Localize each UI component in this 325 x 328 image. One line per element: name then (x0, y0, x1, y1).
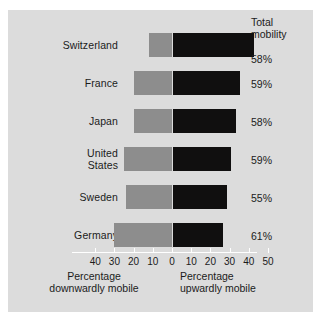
bar-row: Switzerland58% (8, 28, 313, 66)
bar-upwardly-mobile (173, 185, 227, 209)
axis-tick (268, 248, 269, 253)
axis-tick-label: 30 (220, 256, 240, 267)
bar-downwardly-mobile (134, 109, 172, 133)
axis-caption-right-line1: Percentage (180, 270, 305, 282)
axis-tick (230, 248, 231, 253)
total-mobility-value: 61% (251, 230, 272, 242)
axis-tick (191, 248, 192, 253)
bar-row: UnitedStates59% (8, 142, 313, 180)
total-mobility-value: 58% (251, 116, 272, 128)
total-mobility-header-line1: Total (251, 16, 287, 28)
total-mobility-value: 59% (251, 78, 272, 90)
bar-row: Sweden55% (8, 180, 313, 218)
total-mobility-value: 55% (251, 192, 272, 204)
axis-tick (210, 248, 211, 253)
bar-downwardly-mobile (124, 147, 172, 171)
axis-tick-label: 20 (200, 256, 220, 267)
bar-upwardly-mobile (173, 71, 240, 95)
bar-downwardly-mobile (126, 185, 172, 209)
axis-tick-label: 10 (181, 256, 201, 267)
axis-caption-right-line2: upwardly mobile (180, 282, 305, 294)
total-mobility-value: 59% (251, 154, 272, 166)
axis-caption-left-line1: Percentage (14, 270, 174, 282)
axis-tick (134, 248, 135, 253)
bar-upwardly-mobile (173, 223, 223, 247)
x-axis: 4030201001020304050 Percentage downwardl… (8, 252, 313, 312)
axis-tick-label: 40 (85, 256, 105, 267)
bar-downwardly-mobile (149, 33, 172, 57)
axis-caption-left-line2: downwardly mobile (14, 282, 174, 294)
axis-caption-left: Percentage downwardly mobile (14, 270, 174, 294)
axis-tick (114, 248, 115, 253)
axis-tick (172, 248, 173, 253)
bar-downwardly-mobile (114, 223, 172, 247)
axis-tick-label: 10 (143, 256, 163, 267)
bar-upwardly-mobile (173, 109, 236, 133)
bar-upwardly-mobile (173, 33, 254, 57)
bar-row: Japan58% (8, 104, 313, 142)
axis-tick-label: 50 (258, 256, 278, 267)
axis-tick (95, 248, 96, 253)
chart-panel: Total mobility Switzerland58%France59%Ja… (8, 10, 313, 312)
axis-caption-right: Percentage upwardly mobile (180, 270, 305, 294)
axis-tick-label: 40 (239, 256, 259, 267)
bar-row: France59% (8, 66, 313, 104)
axis-tick (249, 248, 250, 253)
bar-upwardly-mobile (173, 147, 231, 171)
total-mobility-value: 58% (251, 53, 272, 65)
bar-downwardly-mobile (134, 71, 172, 95)
axis-tick-label: 30 (104, 256, 124, 267)
axis-tick-label: 0 (162, 256, 182, 267)
axis-tick-label: 20 (124, 256, 144, 267)
axis-tick (153, 248, 154, 253)
